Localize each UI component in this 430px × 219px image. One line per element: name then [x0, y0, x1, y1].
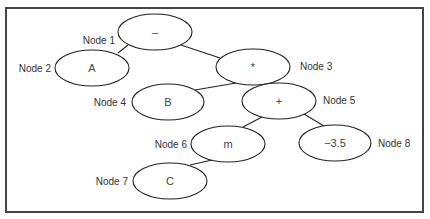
node-label: Node 7 — [96, 176, 129, 187]
edge-node6-node7 — [190, 160, 212, 165]
node-label: Node 3 — [300, 61, 333, 72]
node-value: B — [164, 96, 171, 108]
edge-node5-node8 — [304, 114, 324, 126]
node-value: m — [223, 138, 232, 150]
diagram-frame — [6, 8, 423, 212]
node-value: C — [166, 175, 174, 187]
expression-tree-diagram: – Node 1 A Node 2 * Node 3 Node 3 B Node… — [0, 0, 430, 219]
edge-node1-node2 — [118, 45, 128, 53]
tree-node-1: – Node 1 — [83, 14, 192, 50]
node-label: Node 4 — [94, 97, 127, 108]
node-label: Node 8 — [378, 138, 411, 149]
edge-node3-node4 — [195, 83, 236, 90]
tree-node-2: A Node 2 — [19, 50, 129, 86]
tree-node-8: −3.5 Node 8 — [299, 125, 411, 161]
node-label: Node 5 — [323, 95, 356, 106]
node-value: A — [88, 62, 96, 74]
edge-node5-node6 — [243, 117, 262, 127]
node-value: – — [152, 26, 159, 38]
node-label: Node 6 — [155, 139, 188, 150]
node-value: −3.5 — [324, 137, 346, 149]
node-label: Node 2 — [19, 63, 52, 74]
node-label: Node 1 — [83, 35, 116, 46]
node-value: + — [276, 95, 282, 107]
tree-node-3: * Node 3 Node 3 — [216, 49, 333, 85]
tree-node-7: C Node 7 — [96, 163, 207, 199]
tree-node-4: B Node 4 — [94, 84, 204, 120]
node-value: * — [251, 61, 256, 73]
edge-node1-node3 — [181, 45, 220, 58]
tree-node-6: m Node 6 — [155, 126, 265, 162]
tree-node-5: + Node 5 — [242, 83, 356, 119]
